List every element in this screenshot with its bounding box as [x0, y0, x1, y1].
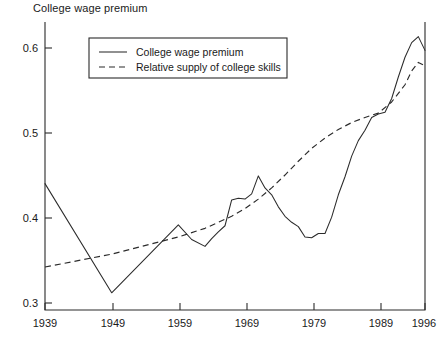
x-axis-labels: 1939 1949 1959 1969 1979 1989 1996: [33, 317, 436, 329]
x-tick-label-0: 1939: [33, 317, 57, 329]
x-tick-label-4: 1979: [302, 317, 326, 329]
y-tick-label-0: 0.6: [23, 42, 38, 54]
x-tick-label-2: 1959: [168, 317, 192, 329]
y-axis-ticks: [45, 48, 52, 303]
x-tick-label-1: 1949: [101, 317, 125, 329]
legend-label-1: Relative supply of college skills: [136, 61, 281, 73]
y-tick-label-3: 0.3: [23, 297, 38, 309]
chart-figure: College wage premium 0.6 0.5 0.4 0.3: [0, 0, 440, 355]
series-line-relative-supply: [45, 62, 425, 267]
x-tick-label-5: 1989: [369, 317, 393, 329]
chart-legend: College wage premium Relative supply of …: [89, 38, 287, 78]
x-tick-label-6: 1996: [412, 317, 436, 329]
x-tick-label-3: 1969: [235, 317, 259, 329]
y-tick-label-1: 0.5: [23, 127, 38, 139]
y-tick-label-2: 0.4: [23, 212, 38, 224]
chart-canvas: 0.6 0.5 0.4 0.3 1939 1949 1959 1969 1979…: [0, 0, 440, 355]
y-axis-labels: 0.6 0.5 0.4 0.3: [23, 42, 38, 309]
legend-label-0: College wage premium: [136, 46, 244, 58]
x-axis-ticks: [45, 303, 425, 310]
